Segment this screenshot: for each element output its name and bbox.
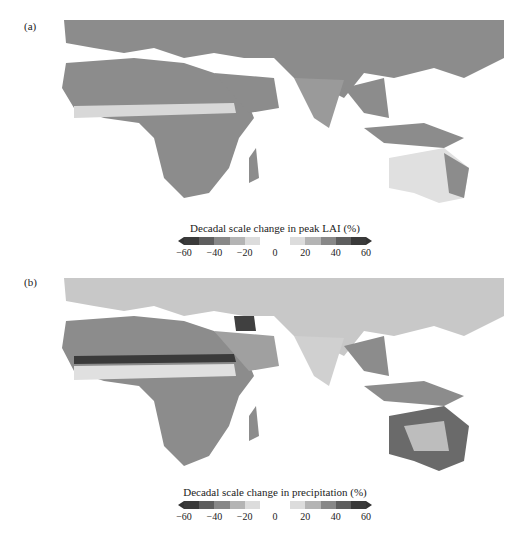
colorbar-scale	[184, 237, 366, 245]
panel-label: (b)	[24, 276, 37, 288]
panel-a: (a) Decadal scale change in peak LAI (%)…	[0, 0, 523, 268]
panel-label: (a)	[24, 20, 36, 32]
tick-label: 60	[361, 511, 371, 522]
tick-label: 20	[300, 247, 310, 258]
tick-label: −60	[176, 511, 192, 522]
tick-label: 60	[361, 247, 371, 258]
arrow-right-icon	[366, 237, 372, 245]
tick-label: −40	[206, 511, 222, 522]
colorbar-title: Decadal scale change in peak LAI (%)	[178, 222, 372, 234]
tick-label: −40	[206, 247, 222, 258]
tick-label: −20	[237, 247, 253, 258]
tick-label: 40	[331, 511, 341, 522]
arrow-right-icon	[366, 501, 372, 509]
colorbar: Decadal scale change in peak LAI (%) −60…	[178, 222, 372, 259]
colorbar-ticks: −60 −40 −20 0 20 40 60	[184, 509, 366, 523]
colorbar-ticks: −60 −40 −20 0 20 40 60	[184, 245, 366, 259]
colorbar-scale	[184, 501, 366, 509]
tick-label: −20	[237, 511, 253, 522]
tick-label: 0	[273, 247, 278, 258]
map-precipitation-change	[44, 276, 512, 476]
map-peak-lai-change	[44, 18, 512, 208]
panel-b: (b) Decadal scale change in precipitatio…	[0, 268, 523, 536]
tick-label: 0	[273, 511, 278, 522]
tick-label: 20	[300, 511, 310, 522]
colorbar-title: Decadal scale change in precipitation (%…	[178, 486, 372, 498]
arrow-left-icon	[178, 501, 184, 509]
tick-label: 40	[331, 247, 341, 258]
colorbar: Decadal scale change in precipitation (%…	[178, 486, 372, 523]
tick-label: −60	[176, 247, 192, 258]
arrow-left-icon	[178, 237, 184, 245]
